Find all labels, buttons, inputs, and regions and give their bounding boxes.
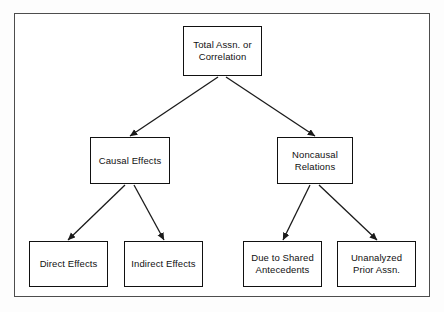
node-label: Total Assn. or Correlation [190, 39, 254, 63]
node-label: Direct Effects [37, 258, 101, 270]
node-label: Due to Shared Antecedents [248, 252, 317, 276]
node-label: Noncausal Relations [289, 149, 341, 173]
node-label: Indirect Effects [128, 258, 198, 270]
node-unanalyzed-prior-assn: Unanalyzed Prior Assn. [337, 241, 416, 287]
node-label: Causal Effects [96, 155, 164, 167]
node-indirect-effects: Indirect Effects [124, 241, 203, 287]
node-noncausal-relations: Noncausal Relations [277, 137, 353, 184]
node-label: Unanalyzed Prior Assn. [348, 252, 405, 276]
node-causal-effects: Causal Effects [90, 137, 170, 184]
diagram-figure: Total Assn. or Correlation Causal Effect… [0, 0, 444, 312]
node-total-association: Total Assn. or Correlation [183, 26, 262, 76]
node-due-to-shared-antecedents: Due to Shared Antecedents [243, 241, 322, 287]
node-direct-effects: Direct Effects [29, 241, 108, 287]
